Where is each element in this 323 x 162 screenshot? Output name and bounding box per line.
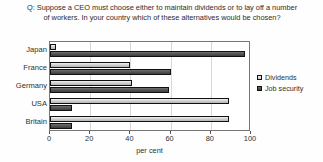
x-tick-label: 20 <box>76 134 102 143</box>
x-tick-label: 80 <box>197 134 223 143</box>
x-tick-label: 60 <box>157 134 183 143</box>
chart-legend: DividendsJob security <box>257 72 319 94</box>
bar-usa-dividends <box>50 98 229 104</box>
bar-japan-job-security <box>50 51 245 57</box>
bar-germany-dividends <box>50 80 132 86</box>
legend-item-dividends: Dividends <box>257 72 319 83</box>
legend-item-job-security: Job security <box>257 83 319 94</box>
bar-france-dividends <box>50 62 130 68</box>
category-label-germany: Germany <box>0 81 47 90</box>
x-tick-label: 0 <box>36 134 62 143</box>
category-label-japan: Japan <box>0 45 47 54</box>
bar-usa-job-security <box>50 105 72 111</box>
bar-group <box>50 96 249 114</box>
x-tick-label: 40 <box>116 134 142 143</box>
x-tick-label: 100 <box>237 134 263 143</box>
plot-area <box>49 41 250 131</box>
bar-britain-job-security <box>50 123 72 129</box>
bar-group <box>50 60 249 78</box>
legend-swatch-icon <box>257 86 262 91</box>
chart-title: Q: Suppose a CEO must choose either to m… <box>26 3 298 22</box>
x-axis-label: per cent <box>49 146 250 155</box>
bar-japan-dividends <box>50 44 56 50</box>
category-label-france: France <box>0 63 47 72</box>
bar-group <box>50 114 249 132</box>
category-label-usa: USA <box>0 99 47 108</box>
category-label-britain: Britain <box>0 117 47 126</box>
legend-label: Job security <box>265 84 303 93</box>
bar-group <box>50 42 249 60</box>
legend-swatch-icon <box>257 75 262 80</box>
bar-group <box>50 78 249 96</box>
bar-france-job-security <box>50 69 171 75</box>
chart-figure: Q: Suppose a CEO must choose either to m… <box>0 0 323 162</box>
bar-germany-job-security <box>50 87 169 93</box>
legend-label: Dividends <box>265 73 297 82</box>
bar-britain-dividends <box>50 116 229 122</box>
